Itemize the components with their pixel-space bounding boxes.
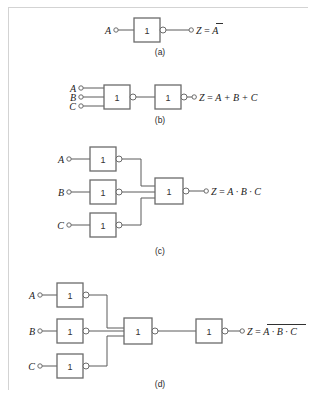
wire-d-C-to-combiner [89,336,124,366]
wire-c-C-to-combiner [122,198,155,225]
gate-a-1-label: 1 [144,26,149,36]
output-terminal-b-Z[interactable] [192,95,196,99]
output-equation-a: Z=A [196,25,219,36]
output-terminal-a-Z[interactable] [189,28,193,32]
input-label-d-A: A [28,290,36,301]
input-terminal-c-B[interactable] [67,190,71,194]
wire-d-A-to-combiner [89,295,124,328]
caption-b: (b) [155,115,166,125]
caption-d: (d) [155,379,166,389]
gate-d-2-inversion-bubble [83,328,89,334]
circuit-diagram-canvas: A 1 Z=A (a) A B C [0,0,311,413]
output-equation-b: Z=A + B + C [199,92,258,103]
input-label-d-C: C [28,361,35,372]
input-terminal-d-C[interactable] [38,364,42,368]
output-terminal-c-Z[interactable] [204,189,208,193]
gate-d-4-label: 1 [135,327,140,337]
gate-c-3-label: 1 [100,221,105,231]
gate-b-1-label: 1 [114,93,119,103]
input-terminal-b-C[interactable] [79,104,83,108]
gate-d-4-inversion-bubble [152,328,158,334]
caption-c: (c) [155,246,165,256]
input-terminal-a-A[interactable] [114,28,118,32]
gate-d-5-inversion-bubble [222,328,228,334]
gate-d-1-inversion-bubble [83,292,89,298]
input-label-a-A: A [104,25,112,36]
circuit-d: A 1 B 1 C 1 1 [28,283,306,389]
figure-root: A 1 Z=A (a) A B C [0,0,311,413]
gate-c-2-inversion-bubble [116,189,122,195]
circuit-a: A 1 Z=A (a) [104,18,223,57]
circuit-b: A B C 1 1 Z=A + B + C (b) [69,83,258,126]
gate-c-4-inversion-bubble [183,188,189,194]
input-label-d-B: B [29,326,35,337]
gate-c-3-inversion-bubble [116,222,122,228]
gate-d-3-label: 1 [67,362,72,372]
input-terminal-d-A[interactable] [38,293,42,297]
input-label-c-A: A [57,154,65,165]
gate-d-1-label: 1 [67,291,72,301]
gate-b-2-inversion-bubble [181,94,187,100]
input-terminal-d-B[interactable] [38,329,42,333]
circuit-c: A 1 B 1 C 1 1 [57,147,261,256]
output-equation-c: Z=A · B · C [211,186,261,197]
gate-d-2-label: 1 [67,327,72,337]
input-terminal-c-A[interactable] [67,157,71,161]
gate-a-1-inversion-bubble [160,27,166,33]
gate-d-5-label: 1 [206,327,211,337]
gate-c-1-label: 1 [100,155,105,165]
gate-b-1-inversion-bubble [130,94,136,100]
input-label-c-B: B [58,187,64,198]
input-terminal-b-B[interactable] [79,95,83,99]
wire-c-A-to-combiner [122,159,155,186]
output-terminal-d-Z[interactable] [240,329,244,333]
input-label-c-C: C [57,220,64,231]
input-terminal-b-A[interactable] [79,86,83,90]
caption-a: (a) [155,47,166,57]
input-label-b-C: C [69,101,76,112]
gate-c-2-label: 1 [100,188,105,198]
output-equation-d: Z=A · B · C [247,326,297,337]
gate-d-3-inversion-bubble [83,363,89,369]
gate-b-2-label: 1 [165,93,170,103]
gate-c-4-label: 1 [166,187,171,197]
gate-c-1-inversion-bubble [116,156,122,162]
input-terminal-c-C[interactable] [67,223,71,227]
